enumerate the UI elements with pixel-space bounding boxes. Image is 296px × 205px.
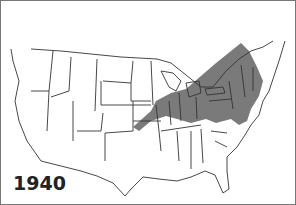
year-label: 1940 — [13, 172, 66, 194]
map-frame: 1940 — [0, 0, 296, 205]
